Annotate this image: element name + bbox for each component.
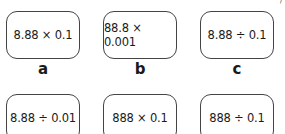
expression-card-b: 88.8 × 0.001 — [103, 11, 177, 59]
expression-card-c: 8.88 ÷ 0.1 — [200, 11, 274, 59]
expression-card-a: 8.88 × 0.1 — [6, 11, 80, 59]
expression-text: 8.88 ÷ 0.01 — [10, 111, 76, 125]
expression-text: 888 ÷ 0.1 — [209, 111, 264, 125]
card-label-c: c — [200, 60, 274, 78]
expression-text: 8.88 × 0.1 — [14, 28, 73, 42]
corner-mark: / — [280, 0, 283, 5]
expression-card-f: 888 ÷ 0.1 — [200, 94, 274, 134]
expression-text: 8.88 ÷ 0.1 — [208, 28, 267, 42]
expression-text: 888 × 0.1 — [112, 111, 167, 125]
expression-card-e: 888 × 0.1 — [103, 94, 177, 134]
expression-text: 88.8 × 0.001 — [104, 21, 176, 49]
expression-card-d: 8.88 ÷ 0.01 — [6, 94, 80, 134]
card-label-a: a — [6, 60, 80, 78]
card-label-b: b — [103, 60, 177, 78]
